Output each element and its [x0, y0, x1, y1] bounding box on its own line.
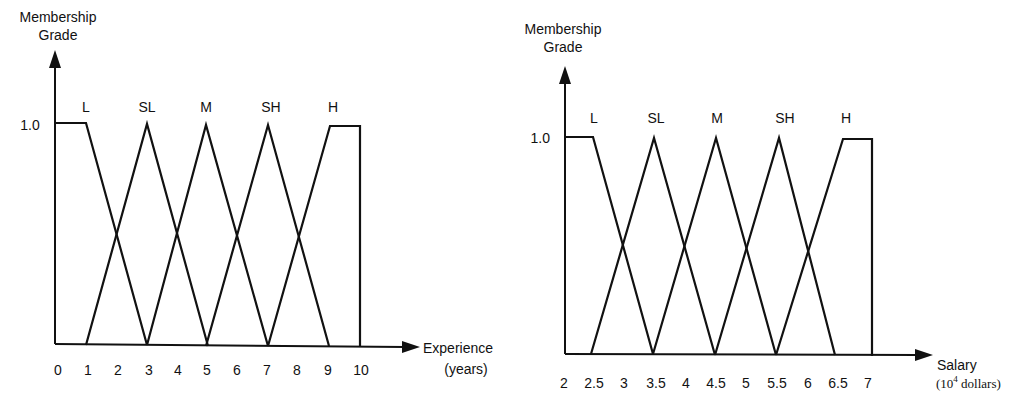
- tick-label: 3: [620, 375, 628, 391]
- figure-canvas: Membership Grade 1.0 L SL M SH H 0 1 2 3: [0, 0, 1032, 410]
- right-ylabel-line1: Membership: [524, 21, 601, 37]
- tick-label: 5: [742, 375, 750, 391]
- experience-chart: Membership Grade 1.0 L SL M SH H 0 1 2 3: [19, 9, 493, 378]
- right-xunit-post: dollars): [958, 376, 1001, 391]
- left-x-axis: [55, 344, 405, 347]
- left-x-tick-labels: 0 1 2 3 4 5 6 7 8 9 10: [54, 362, 369, 378]
- left-set-SH-curve: [206, 125, 329, 346]
- left-set-label: SL: [138, 99, 155, 115]
- tick-label: 8: [293, 362, 301, 378]
- right-set-M-curve: [653, 138, 776, 355]
- right-set-label: SL: [647, 110, 664, 126]
- tick-label: 0: [54, 362, 62, 378]
- left-y-axis-arrow-icon: [49, 50, 61, 68]
- tick-label: 6: [804, 375, 812, 391]
- right-set-label: H: [841, 110, 851, 126]
- tick-label: 1: [84, 362, 92, 378]
- right-y-one-label: 1.0: [531, 130, 551, 146]
- left-ylabel-line1: Membership: [19, 9, 96, 25]
- tick-label: 3.5: [646, 375, 666, 391]
- tick-label: 9: [324, 362, 332, 378]
- left-set-label: L: [82, 99, 90, 115]
- right-xlabel: Salary: [937, 357, 977, 373]
- tick-label: 5.5: [767, 375, 787, 391]
- right-set-SL-curve: [591, 138, 715, 355]
- left-set-label: SH: [261, 99, 280, 115]
- left-set-L-curve: [55, 123, 147, 345]
- tick-label: 6.5: [828, 375, 848, 391]
- tick-label: 2: [114, 362, 122, 378]
- right-xunit-pre: (10: [936, 376, 953, 391]
- tick-label: 7: [263, 362, 271, 378]
- tick-label: 7: [864, 375, 872, 391]
- left-xunit: (years): [444, 361, 488, 377]
- tick-label: 2.5: [584, 375, 604, 391]
- tick-label: 4.5: [706, 375, 726, 391]
- right-ylabel-line2: Grade: [544, 39, 583, 55]
- right-y-axis-arrow-icon: [559, 66, 571, 84]
- tick-label: 10: [353, 362, 369, 378]
- right-x-tick-labels: 2 2.5 3 3.5 4 4.5 5 5.5 6 6.5 7: [560, 375, 872, 391]
- right-xunit: (104 dollars): [936, 374, 1001, 391]
- left-set-SL-curve: [86, 124, 208, 346]
- salary-chart: Membership Grade 1.0 L SL M SH H 2 2.5 3…: [524, 21, 1000, 391]
- left-set-label: H: [328, 99, 338, 115]
- tick-label: 6: [233, 362, 241, 378]
- right-x-axis: [565, 354, 918, 355]
- tick-label: 2: [560, 375, 568, 391]
- right-set-SH-curve: [715, 138, 835, 355]
- left-ylabel-line2: Grade: [39, 27, 78, 43]
- right-set-L-curve: [565, 137, 653, 354]
- right-set-label: M: [711, 110, 723, 126]
- tick-label: 3: [145, 362, 153, 378]
- left-set-H-curve: [268, 126, 360, 347]
- left-y-one-label: 1.0: [20, 117, 40, 133]
- right-set-label: L: [590, 110, 598, 126]
- left-set-M-curve: [147, 125, 268, 346]
- right-x-axis-arrow-icon: [915, 349, 933, 361]
- tick-label: 4: [174, 362, 182, 378]
- right-set-H-curve: [776, 139, 872, 356]
- left-set-label: M: [200, 99, 212, 115]
- tick-label: 5: [203, 362, 211, 378]
- left-x-axis-arrow-icon: [402, 341, 420, 353]
- left-xlabel: Experience: [423, 340, 493, 356]
- tick-label: 4: [682, 375, 690, 391]
- right-set-label: SH: [775, 110, 794, 126]
